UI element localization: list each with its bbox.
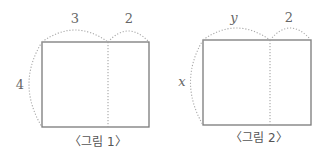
figure-1: 3 2 4 〈그림 1〉 <box>16 11 149 149</box>
figure-1-side-label: 4 <box>16 77 24 92</box>
figure-2-rectangle <box>203 40 311 125</box>
figure-2-top-left-arc <box>203 28 270 40</box>
figure-1-top-right-label: 2 <box>125 11 133 26</box>
figure-1-top-right-arc <box>108 31 149 42</box>
figure-2-side-arc <box>191 40 204 125</box>
figure-2-caption: 〈그림 2〉 <box>230 131 287 145</box>
figure-2-top-left-label: y <box>229 10 238 25</box>
figure-2-top-right-arc <box>270 28 311 40</box>
figure-1-top-left-arc <box>42 30 108 42</box>
figure-2-side-label: x <box>178 74 186 89</box>
figure-1-caption: 〈그림 1〉 <box>69 135 126 149</box>
figure-1-rectangle <box>42 42 149 127</box>
diagram-canvas: 3 2 4 〈그림 1〉 y 2 x 〈그림 2〉 <box>0 0 329 158</box>
figure-2: y 2 x 〈그림 2〉 <box>178 10 311 145</box>
figure-1-top-left-label: 3 <box>71 11 79 26</box>
figure-2-top-right-label: 2 <box>285 10 293 25</box>
figure-1-side-arc <box>29 42 42 127</box>
